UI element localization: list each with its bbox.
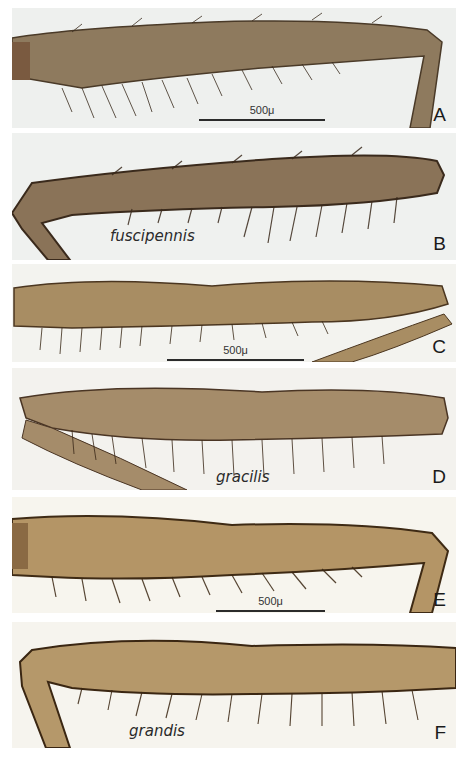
scale-bar — [216, 610, 325, 612]
panel-letter: E — [433, 589, 446, 611]
femur-micrograph-f — [12, 622, 456, 748]
panel-letter: B — [433, 233, 446, 255]
scale-bar — [199, 119, 325, 121]
species-label: gracilis — [216, 468, 269, 486]
scale-bar-label: 500μ — [216, 595, 325, 607]
scale-bar-label: 500μ — [167, 344, 304, 356]
panel-f: grandis F — [12, 622, 456, 748]
panel-c: 500μ C — [12, 264, 456, 362]
panel-letter: C — [432, 336, 446, 358]
panel-b: fuscipennis B — [12, 133, 456, 260]
species-label: fuscipennis — [110, 227, 195, 245]
scale-bar-label: 500μ — [199, 104, 325, 116]
panel-letter: A — [433, 104, 446, 126]
species-label: grandis — [129, 722, 185, 740]
panel-letter: D — [432, 466, 446, 488]
panel-letter: F — [434, 722, 446, 744]
scale-bar — [167, 359, 304, 361]
panel-a: 500μ A — [12, 8, 456, 128]
panel-e: 500μ E — [12, 497, 456, 613]
femur-micrograph-b — [12, 133, 456, 260]
panel-d: gracilis D — [12, 368, 456, 490]
